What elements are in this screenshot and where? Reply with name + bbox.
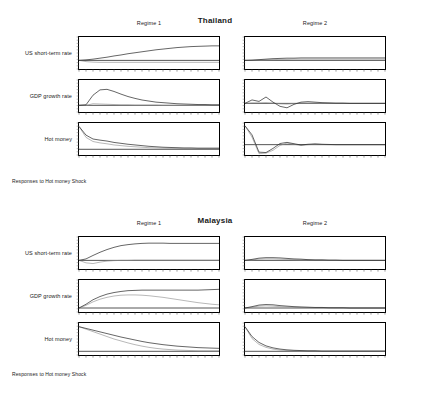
chart-malaysia-r2-usrate [245, 237, 385, 269]
column-headers-thailand: Regime 1 Regime 2 [78, 0, 422, 10]
row-label-gdp-growth-rate: GDP growth rate [0, 93, 72, 100]
chart-thailand-r2-gdp [245, 80, 385, 112]
column-header-regime-2: Regime 2 [244, 20, 386, 26]
panel-malaysia-regime2-gdp [244, 279, 386, 313]
column-header-regime-2: Regime 2 [244, 220, 386, 226]
series-response [245, 126, 385, 153]
panel-malaysia-regime1-us-rate [78, 236, 220, 270]
chart-malaysia-r1-gdp [79, 280, 219, 312]
chart-thailand-r1-gdp [79, 80, 219, 112]
chart-malaysia-r1-usrate [79, 237, 219, 269]
series-response [79, 89, 219, 105]
panel-thailand-regime1-us-rate [78, 36, 220, 70]
chart-thailand-r2-usrate [245, 37, 385, 69]
series-response [79, 289, 219, 308]
series-band [245, 126, 385, 154]
panel-thailand-regime2-hotmoney [244, 122, 386, 156]
row-label-us-short-term-rate: US short-term rate [0, 250, 72, 257]
figure-caption-malaysia: Responses to Hot money Shock [12, 371, 86, 377]
chart-malaysia-r2-hotmoney [245, 323, 385, 355]
row-label-hot-money: Hot money [0, 136, 72, 143]
panel-malaysia-regime2-us-rate [244, 236, 386, 270]
panel-thailand-regime1-hotmoney [78, 122, 220, 156]
column-header-regime-1: Regime 1 [78, 220, 220, 226]
chart-thailand-r1-hotmoney [79, 123, 219, 155]
series-response [79, 243, 219, 260]
series-response [79, 126, 219, 148]
panel-malaysia-regime2-hotmoney [244, 322, 386, 356]
series-response [79, 327, 219, 349]
row-label-gdp-growth-rate: GDP growth rate [0, 293, 72, 300]
panel-malaysia-regime1-hotmoney [78, 322, 220, 356]
series-band [245, 327, 385, 352]
series-response [245, 305, 385, 308]
row-label-hot-money: Hot money [0, 336, 72, 343]
panel-thailand-regime2-us-rate [244, 36, 386, 70]
series-response [79, 46, 219, 61]
chart-thailand-r2-hotmoney [245, 123, 385, 155]
column-headers-malaysia: Regime 1 Regime 2 [78, 200, 422, 210]
chart-malaysia-r2-gdp [245, 280, 385, 312]
column-header-regime-1: Regime 1 [78, 20, 220, 26]
chart-thailand-r1-usrate [79, 37, 219, 69]
series-band [79, 126, 219, 148]
row-label-us-short-term-rate: US short-term rate [0, 50, 72, 57]
figure-thailand: Thailand Regime 1 Regime 2 [0, 0, 430, 200]
figure-malaysia: Malaysia Regime 1 Regime 2 [0, 200, 430, 401]
panel-thailand-regime1-gdp [78, 79, 220, 113]
panel-malaysia-regime1-gdp [78, 279, 220, 313]
figure-caption-thailand: Responses to Hot money Shock [12, 178, 86, 184]
series-band [79, 327, 219, 351]
chart-malaysia-r1-hotmoney [79, 323, 219, 355]
panel-thailand-regime2-gdp [244, 79, 386, 113]
